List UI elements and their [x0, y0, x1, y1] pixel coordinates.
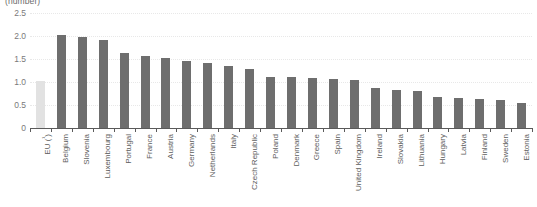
- bar[interactable]: [517, 103, 526, 128]
- bar[interactable]: [120, 53, 129, 128]
- bar-slot: [72, 13, 93, 128]
- y-tick-label: 2.5: [14, 8, 26, 18]
- x-tick-label: Netherlands: [208, 134, 217, 177]
- x-tick: [239, 128, 240, 132]
- x-axis-slot: Lithuania: [407, 128, 428, 207]
- x-tick-label: Greece: [312, 134, 321, 160]
- bar[interactable]: [454, 98, 463, 128]
- bar[interactable]: [141, 56, 150, 128]
- x-tick: [365, 128, 366, 132]
- bar-slot: [156, 13, 177, 128]
- x-axis-slot: Luxembourg: [93, 128, 114, 207]
- x-tick: [197, 128, 198, 132]
- x-tick-label: United Kingdom: [354, 134, 363, 191]
- x-tick-label: Sweden: [501, 134, 510, 163]
- bar-slot: [448, 13, 469, 128]
- x-tick: [93, 128, 94, 132]
- x-axis: EU (¹)BelgiumSloveniaLuxembourgPortugalF…: [30, 128, 532, 207]
- x-axis-slot: Netherlands: [197, 128, 218, 207]
- x-axis-slot: Czech Republic: [239, 128, 260, 207]
- x-tick-label: Finland: [480, 134, 489, 160]
- bar[interactable]: [245, 69, 254, 128]
- bar[interactable]: [287, 77, 296, 128]
- x-axis-slot: Slovenia: [72, 128, 93, 207]
- bar[interactable]: [413, 91, 422, 128]
- x-tick-label: Latvia: [459, 134, 468, 155]
- x-tick-label: Poland: [271, 134, 280, 159]
- x-tick: [469, 128, 470, 132]
- bar-slot: [93, 13, 114, 128]
- bar[interactable]: [392, 90, 401, 128]
- bar[interactable]: [182, 61, 191, 128]
- bar-slot: [281, 13, 302, 128]
- bar-slot: [302, 13, 323, 128]
- x-tick-label: Germany: [187, 134, 196, 167]
- y-tick-label: 0.5: [14, 100, 26, 110]
- bar[interactable]: [433, 97, 442, 128]
- bar-slot: [114, 13, 135, 128]
- x-axis-slot: EU (¹): [30, 128, 51, 207]
- x-tick: [323, 128, 324, 132]
- x-tick: [156, 128, 157, 132]
- bar-slot: [365, 13, 386, 128]
- x-axis-slot: United Kingdom: [344, 128, 365, 207]
- x-tick-label: Czech Republic: [250, 134, 259, 190]
- bar-slot: [260, 13, 281, 128]
- bar[interactable]: [371, 88, 380, 128]
- x-axis-slot: Portugal: [114, 128, 135, 207]
- bar-slot: [469, 13, 490, 128]
- x-tick-label: Ireland: [375, 134, 384, 158]
- y-tick-label: 0: [21, 123, 26, 133]
- x-axis-slot: Poland: [260, 128, 281, 207]
- bar-slot: [176, 13, 197, 128]
- x-tick-label: Lithuania: [417, 134, 426, 166]
- bar[interactable]: [496, 100, 505, 128]
- x-tick-label: Portugal: [124, 134, 133, 164]
- bar[interactable]: [266, 77, 275, 128]
- bar-slot: [407, 13, 428, 128]
- bar[interactable]: [329, 79, 338, 128]
- bar-slot: [511, 13, 532, 128]
- bar[interactable]: [350, 80, 359, 128]
- x-tick: [511, 128, 512, 132]
- x-tick: [30, 128, 31, 132]
- bar-slot: [197, 13, 218, 128]
- bar[interactable]: [78, 37, 87, 128]
- bar-slot: [344, 13, 365, 128]
- x-tick: [407, 128, 408, 132]
- bar[interactable]: [224, 66, 233, 128]
- bar[interactable]: [308, 78, 317, 128]
- bar[interactable]: [99, 40, 108, 128]
- bar-slot: [239, 13, 260, 128]
- x-tick-label: Spain: [333, 134, 342, 154]
- x-tick: [114, 128, 115, 132]
- bar-slot: [51, 13, 72, 128]
- x-tick-label: Italy: [229, 134, 238, 149]
- x-axis-slot: Spain: [323, 128, 344, 207]
- x-tick-label: France: [145, 134, 154, 159]
- bar-slot: [30, 13, 51, 128]
- x-tick-label: Luxembourg: [103, 134, 112, 178]
- x-tick: [260, 128, 261, 132]
- x-tick: [302, 128, 303, 132]
- bar-slot: [323, 13, 344, 128]
- bar[interactable]: [161, 58, 170, 128]
- x-axis-slot: Belgium: [51, 128, 72, 207]
- bar[interactable]: [36, 81, 45, 128]
- y-tick-label: 2.0: [14, 31, 26, 41]
- x-axis-slot: Slovakia: [386, 128, 407, 207]
- x-axis-slot: Sweden: [490, 128, 511, 207]
- x-axis-slot: Italy: [218, 128, 239, 207]
- x-tick: [448, 128, 449, 132]
- bar[interactable]: [203, 63, 212, 128]
- x-tick: [386, 128, 387, 132]
- x-tick: [428, 128, 429, 132]
- bar[interactable]: [475, 99, 484, 128]
- x-axis-slot: Latvia: [448, 128, 469, 207]
- bar-slot: [135, 13, 156, 128]
- x-axis-slot: Greece: [302, 128, 323, 207]
- x-tick: [72, 128, 73, 132]
- x-tick: [51, 128, 52, 132]
- x-axis-slot: Austria: [156, 128, 177, 207]
- bar[interactable]: [57, 35, 66, 128]
